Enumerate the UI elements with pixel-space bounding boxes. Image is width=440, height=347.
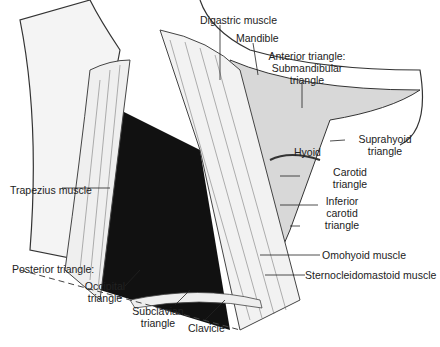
label-omohyoid-muscle: Omohyoid muscle [322,249,406,261]
label-inferior-line3: triangle [317,219,367,231]
label-subclavian-line2: triangle [128,317,188,329]
label-subclavian-line1: Subclavian [128,305,188,317]
label-trapezius-muscle: Trapezius muscle [10,184,92,196]
label-posterior-triangle: Posterior triangle: [12,263,94,275]
label-inferior-carotid-triangle: Inferior carotid triangle [317,195,367,231]
label-carotid-line1: Carotid [330,166,370,178]
label-carotid-line2: triangle [330,178,370,190]
label-clavicle: Clavicle [188,322,225,334]
label-suprahyoid-line1: Suprahyoid [355,133,415,145]
neck-triangles-diagram: Digastric muscle Mandible Anterior trian… [0,0,440,347]
label-anterior-line3: triangle [262,74,352,86]
label-occipital-line2: triangle [80,292,130,304]
label-sternocleidomastoid-muscle: Sternocleidomastoid muscle [305,269,436,281]
label-hyoid: Hyoid [294,146,321,158]
label-anterior-line1: Anterior triangle: [262,50,352,62]
label-suprahyoid-line2: triangle [355,145,415,157]
label-anterior-line2: Submandibular [262,62,352,74]
label-carotid-triangle: Carotid triangle [330,166,370,190]
label-mandible: Mandible [236,32,279,44]
label-inferior-line1: Inferior [317,195,367,207]
label-digastric-muscle: Digastric muscle [200,14,277,26]
label-occipital-triangle: Occipital triangle [80,280,130,304]
label-inferior-line2: carotid [317,207,367,219]
label-suprahyoid-triangle: Suprahyoid triangle [355,133,415,157]
anatomy-illustration [0,0,440,347]
label-subclavian-triangle: Subclavian triangle [128,305,188,329]
label-anterior-triangle: Anterior triangle: Submandibular triangl… [262,50,352,86]
label-occipital-line1: Occipital [80,280,130,292]
